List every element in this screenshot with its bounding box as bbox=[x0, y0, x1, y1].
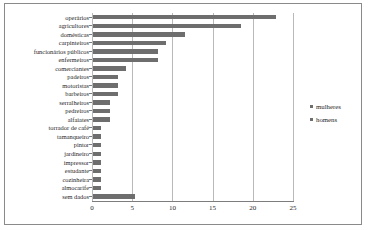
x-axis-tick-label: 5 bbox=[120, 203, 144, 214]
chart-container: operáriosagricultoresdomésticascarpintei… bbox=[4, 3, 362, 225]
y-axis-tick bbox=[89, 76, 92, 77]
bar[interactable] bbox=[93, 58, 158, 62]
y-axis-tick bbox=[89, 119, 92, 120]
bar-row: sem dados bbox=[5, 192, 363, 201]
y-axis-tick bbox=[89, 127, 92, 128]
bar[interactable] bbox=[93, 100, 110, 104]
y-axis-tick bbox=[89, 187, 92, 188]
bar[interactable] bbox=[93, 92, 118, 96]
y-axis-tick bbox=[89, 93, 92, 94]
y-axis-tick bbox=[89, 34, 92, 35]
chart-legend: mulhereshomens bbox=[310, 100, 360, 126]
y-axis-tick bbox=[89, 136, 92, 137]
y-axis-tick bbox=[89, 25, 92, 26]
bar[interactable] bbox=[93, 194, 135, 198]
category-label: sem dados bbox=[0, 192, 89, 201]
bar[interactable] bbox=[93, 83, 118, 87]
y-axis-tick bbox=[89, 153, 92, 154]
bar[interactable] bbox=[93, 24, 241, 28]
x-axis-tick-label: 0 bbox=[80, 203, 104, 214]
chart-title bbox=[5, 4, 363, 12]
y-axis-tick bbox=[89, 85, 92, 86]
x-axis-tick-labels: 0510152025 bbox=[5, 203, 363, 217]
y-axis-tick bbox=[89, 68, 92, 69]
bar[interactable] bbox=[93, 152, 101, 156]
bar[interactable] bbox=[93, 41, 166, 45]
y-axis-tick bbox=[89, 170, 92, 171]
bar[interactable] bbox=[93, 117, 110, 121]
y-axis-tick bbox=[89, 179, 92, 180]
bar[interactable] bbox=[93, 160, 101, 164]
y-axis-tick bbox=[89, 51, 92, 52]
bar[interactable] bbox=[93, 32, 185, 36]
y-axis-tick bbox=[89, 196, 92, 197]
bar[interactable] bbox=[93, 109, 110, 113]
x-axis-tick-label: 15 bbox=[201, 203, 225, 214]
bar[interactable] bbox=[93, 49, 158, 53]
bar[interactable] bbox=[93, 66, 126, 70]
square-marker-icon bbox=[310, 118, 313, 121]
y-axis-tick bbox=[89, 102, 92, 103]
x-axis-tick-label: 10 bbox=[160, 203, 184, 214]
x-axis-tick-label: 20 bbox=[241, 203, 265, 214]
bar[interactable] bbox=[93, 169, 101, 173]
bar[interactable] bbox=[93, 186, 101, 190]
bar[interactable] bbox=[93, 126, 101, 130]
square-marker-icon bbox=[310, 105, 313, 108]
x-axis-line bbox=[92, 201, 294, 202]
y-axis-tick bbox=[89, 59, 92, 60]
bar[interactable] bbox=[93, 177, 101, 181]
x-axis-tick-label: 25 bbox=[281, 203, 305, 214]
y-axis-tick bbox=[89, 42, 92, 43]
legend-label: homens bbox=[316, 116, 337, 123]
bar[interactable] bbox=[93, 15, 276, 19]
bar[interactable] bbox=[93, 134, 101, 138]
bar[interactable] bbox=[93, 75, 118, 79]
legend-item[interactable]: homens bbox=[310, 113, 360, 126]
legend-label: mulheres bbox=[316, 103, 341, 110]
legend-item[interactable]: mulheres bbox=[310, 100, 360, 113]
bar[interactable] bbox=[93, 143, 101, 147]
y-axis-tick bbox=[89, 162, 92, 163]
y-axis-tick bbox=[89, 110, 92, 111]
y-axis-tick bbox=[89, 144, 92, 145]
y-axis-tick bbox=[89, 17, 92, 18]
